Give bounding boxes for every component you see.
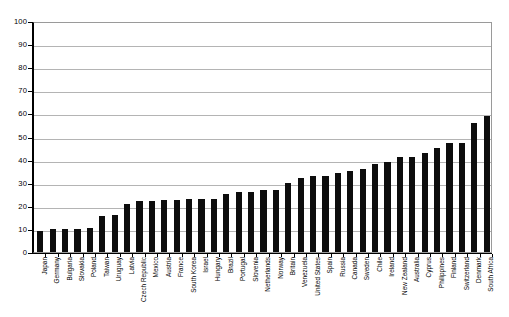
x-axis-tick-label: Sweden bbox=[364, 257, 370, 280]
bar bbox=[62, 229, 68, 252]
x-axis-tick-label: Venezuela bbox=[302, 257, 308, 287]
y-axis-tick-label: 20 bbox=[18, 203, 27, 211]
bar bbox=[248, 192, 254, 252]
plot-area bbox=[33, 22, 492, 253]
x-axis-tick-label: Philippines bbox=[439, 257, 445, 288]
x-axis-tick-label: New Zealand bbox=[402, 257, 408, 295]
x-axis-tick-label: Hungary bbox=[215, 257, 221, 281]
x-axis-tick-label: Israel bbox=[203, 257, 209, 273]
x-axis-tick-label: Poland bbox=[91, 257, 97, 277]
x-axis-tick-label: United States bbox=[315, 257, 321, 296]
x-axis-tick-label: Chile bbox=[377, 257, 383, 272]
bar bbox=[223, 194, 229, 252]
x-axis-tick-label: Japan bbox=[42, 257, 48, 275]
bar bbox=[50, 229, 56, 252]
bar bbox=[347, 171, 353, 252]
y-axis-tick-mark bbox=[28, 230, 32, 231]
y-axis-tick-mark bbox=[28, 207, 32, 208]
x-axis-tick-label: Australia bbox=[414, 257, 420, 282]
x-axis-tick-label: Norway bbox=[278, 257, 284, 279]
bar bbox=[298, 178, 304, 252]
bar bbox=[422, 153, 428, 252]
y-axis-tick-label: 60 bbox=[18, 111, 27, 119]
bar bbox=[335, 173, 341, 252]
y-axis-line bbox=[32, 22, 33, 254]
bar bbox=[285, 183, 291, 252]
y-axis-tick-mark bbox=[28, 253, 32, 254]
x-axis-tick-label: Taiwan bbox=[104, 257, 110, 277]
x-axis-tick-label: France bbox=[178, 257, 184, 277]
x-axis-tick-label: Switzerland bbox=[464, 257, 470, 290]
x-axis-tick-label: Latvia bbox=[129, 257, 135, 274]
bar bbox=[397, 157, 403, 252]
bar-chart: 0102030405060708090100 JapanGermanyBulga… bbox=[0, 0, 509, 317]
bar bbox=[87, 228, 93, 252]
y-axis-tick-label: 80 bbox=[18, 64, 27, 72]
x-axis-tick-label: Ireland bbox=[389, 257, 395, 277]
y-axis-tick-label: 10 bbox=[18, 226, 27, 234]
bar bbox=[409, 157, 415, 252]
bar bbox=[384, 162, 390, 252]
x-axis-tick-label: Russia bbox=[340, 257, 346, 277]
bar bbox=[124, 204, 130, 253]
bars-layer bbox=[34, 23, 491, 252]
bar bbox=[37, 231, 43, 252]
x-axis-tick-label: Uruguay bbox=[116, 257, 122, 281]
y-axis-tick-mark bbox=[28, 45, 32, 46]
y-axis-tick-mark bbox=[28, 184, 32, 185]
bar bbox=[174, 200, 180, 252]
bar bbox=[136, 201, 142, 252]
y-axis-tick-label: 40 bbox=[18, 157, 27, 165]
bar bbox=[198, 199, 204, 252]
x-axis-tick-label: Cyprus bbox=[426, 257, 432, 277]
y-axis-tick-label: 100 bbox=[14, 18, 27, 26]
bar bbox=[360, 169, 366, 252]
x-axis-tick-label: South Africa bbox=[488, 257, 494, 292]
x-axis-tick-label: Slovenia bbox=[253, 257, 259, 282]
bar bbox=[99, 216, 105, 252]
x-axis-tick-label: Mexico bbox=[153, 257, 159, 277]
x-axis-tick-label: Portugal bbox=[240, 257, 246, 281]
x-axis-tick-label: Netherlands bbox=[265, 257, 271, 292]
y-axis-tick-mark bbox=[28, 138, 32, 139]
x-axis-tick-label: South Korea bbox=[191, 257, 197, 293]
x-axis-tick-label: Bulgaria bbox=[67, 257, 73, 281]
bar bbox=[74, 229, 80, 252]
bar bbox=[372, 164, 378, 252]
bar bbox=[186, 199, 192, 252]
bar bbox=[161, 200, 167, 252]
x-axis-tick-label: Brazil bbox=[228, 257, 234, 273]
bar bbox=[236, 192, 242, 252]
x-axis-tick-label: Britain bbox=[290, 257, 296, 275]
y-axis-tick-label: 50 bbox=[18, 134, 27, 142]
bar bbox=[434, 148, 440, 252]
y-axis-tick-label: 70 bbox=[18, 88, 27, 96]
bar bbox=[322, 176, 328, 252]
x-axis-tick-label: Czech Republic bbox=[141, 257, 147, 302]
bar bbox=[273, 190, 279, 252]
bar bbox=[471, 123, 477, 252]
y-axis-tick-label: 90 bbox=[18, 41, 27, 49]
y-axis-tick-label: 0 bbox=[23, 249, 27, 257]
y-axis-tick-mark bbox=[28, 161, 32, 162]
x-axis-line bbox=[33, 253, 492, 254]
x-axis-tick-label: Germany bbox=[54, 257, 60, 283]
x-axis-tick-labels: JapanGermanyBulgariaSlovakiaPolandTaiwan… bbox=[0, 257, 509, 317]
x-axis-tick-label: Denmark bbox=[476, 257, 482, 283]
bar bbox=[149, 201, 155, 252]
x-axis-tick-label: Spain bbox=[327, 257, 333, 273]
y-axis-tick-mark bbox=[28, 68, 32, 69]
x-axis-tick-label: Slovakia bbox=[79, 257, 85, 281]
bar bbox=[446, 143, 452, 252]
y-axis-tick-label: 30 bbox=[18, 180, 27, 188]
bar bbox=[310, 176, 316, 252]
bar bbox=[484, 116, 490, 252]
bar bbox=[459, 143, 465, 252]
bar bbox=[260, 190, 266, 252]
y-axis-tick-mark bbox=[28, 22, 32, 23]
x-axis-tick-label: Austria bbox=[166, 257, 172, 277]
y-axis-tick-mark bbox=[28, 91, 32, 92]
x-axis-tick-label: Finland bbox=[451, 257, 457, 278]
x-axis-tick-label: Canada bbox=[352, 257, 358, 280]
bar bbox=[112, 215, 118, 252]
